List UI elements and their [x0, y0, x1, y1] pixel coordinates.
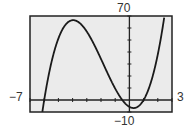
xmin-label: −7 — [9, 91, 23, 103]
ymin-label: −10 — [114, 115, 134, 127]
ymax-label: 70 — [117, 2, 130, 14]
graph-window — [0, 0, 187, 130]
xmax-label: 3 — [177, 91, 184, 103]
